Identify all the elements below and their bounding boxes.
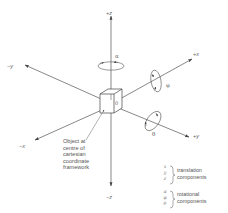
- legend-rotational-label2: components: [177, 198, 206, 204]
- legend-symbol-alpha: α: [162, 189, 168, 195]
- legend-symbol-y: y: [162, 170, 168, 176]
- label-phi: φ: [166, 82, 170, 89]
- legend-braces: [170, 166, 175, 208]
- label-theta: θ: [152, 131, 156, 137]
- legend-symbol-z: z: [162, 176, 168, 182]
- note-line: centre of: [63, 145, 89, 152]
- object-box-icon: [100, 89, 122, 113]
- label-pos-y: +y: [193, 133, 200, 139]
- legend-symbol-x: x: [162, 164, 168, 170]
- legend-symbol-phi: φ: [162, 195, 168, 201]
- note-leader-line: [86, 110, 104, 140]
- label-neg-x: −x: [19, 143, 25, 149]
- axis-pos-x: [118, 59, 192, 100]
- note-line: coordinate: [63, 158, 89, 165]
- object-note: Object at centre of cartesian coordinate…: [63, 138, 89, 171]
- axis-neg-y: [25, 65, 108, 102]
- legend-symbol-theta: θ: [162, 201, 168, 207]
- note-line: framework: [63, 164, 89, 171]
- label-origin: 0: [115, 100, 118, 106]
- legend-translation-label2: components: [177, 174, 206, 180]
- label-pos-x: +x: [193, 51, 199, 57]
- note-line: Object at: [63, 138, 89, 145]
- label-neg-y: −y: [7, 63, 14, 69]
- legend-translation-label1: translation: [177, 167, 202, 173]
- label-neg-z: −z: [106, 194, 112, 200]
- note-line: cartesian: [63, 151, 89, 158]
- rotation-phi-icon: [149, 69, 163, 92]
- label-alpha: α: [115, 53, 119, 59]
- label-pos-z: +z: [106, 10, 112, 16]
- coordinate-diagram: +z −z −y +y +x −x α φ θ 0: [0, 0, 228, 213]
- axis-neg-x: [35, 109, 104, 140]
- legend-rotational-label1: rotational: [177, 191, 199, 197]
- rotation-theta-icon: [142, 109, 164, 134]
